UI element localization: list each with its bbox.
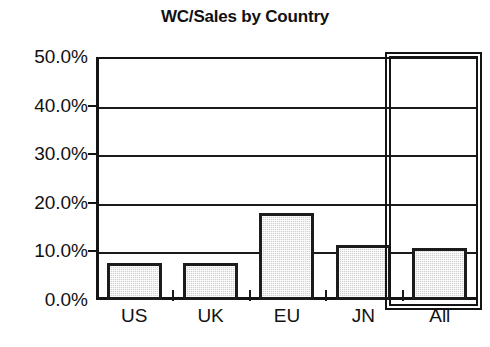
x-axis-tick-label: US xyxy=(96,305,172,327)
x-axis-tick-label: All xyxy=(402,305,478,327)
y-axis-tick-label: 40.0% xyxy=(34,95,88,117)
y-axis-tick-mark xyxy=(88,202,96,204)
x-axis-tick-mark xyxy=(172,290,174,301)
y-axis-tick-label: 20.0% xyxy=(34,192,88,214)
y-axis-labels: 0.0%10.0%20.0%30.0%40.0%50.0% xyxy=(0,0,92,347)
bars-layer xyxy=(96,57,478,300)
bar xyxy=(183,263,238,300)
x-axis-tick-label: JN xyxy=(325,305,401,327)
y-axis-tick-mark xyxy=(88,153,96,155)
bar-chart: WC/Sales by Country 0.0%10.0%20.0%30.0%4… xyxy=(0,0,490,347)
x-axis-labels: USUKEUJNAll xyxy=(96,305,478,339)
y-axis-tick-label: 30.0% xyxy=(34,143,88,165)
y-axis-tick-label: 50.0% xyxy=(34,46,88,68)
x-axis-tick-mark xyxy=(325,290,327,301)
bar xyxy=(412,248,467,300)
y-axis-tick-label: 0.0% xyxy=(45,289,88,311)
bar xyxy=(259,213,314,300)
x-axis-tick-label: UK xyxy=(172,305,248,327)
x-axis-tick-mark xyxy=(249,290,251,301)
bar xyxy=(336,245,391,300)
y-axis-tick-mark xyxy=(88,105,96,107)
bar xyxy=(107,263,162,300)
y-axis-tick-mark xyxy=(88,250,96,252)
x-axis-tick-mark xyxy=(402,290,404,301)
x-axis-tick-label: EU xyxy=(249,305,325,327)
y-axis-tick-label: 10.0% xyxy=(34,240,88,262)
